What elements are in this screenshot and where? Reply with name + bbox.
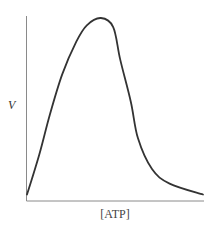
x-axis-label: [ATP] <box>0 207 220 222</box>
chart-plot-area <box>0 0 220 236</box>
velocity-curve <box>27 18 203 195</box>
y-axis-label: V <box>8 98 15 113</box>
